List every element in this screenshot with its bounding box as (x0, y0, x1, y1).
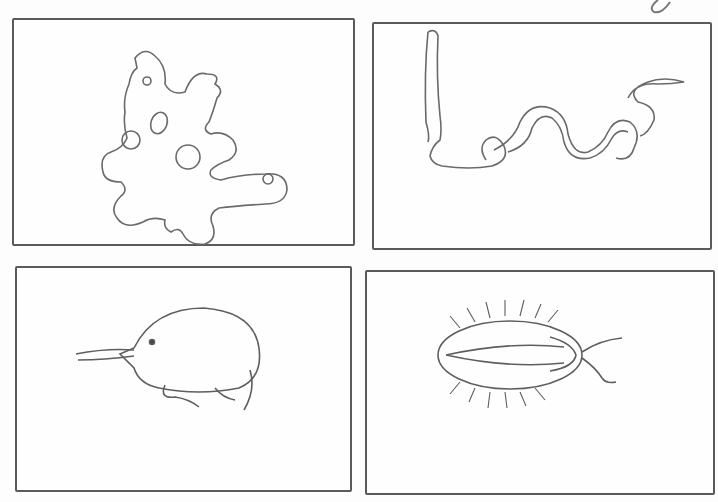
amoeba-drawing (102, 51, 287, 244)
partial-letter-sketch (652, 0, 670, 12)
ostracod-drawing (76, 308, 260, 410)
worm-drawing (425, 31, 684, 168)
trilobite-drawing (438, 300, 622, 408)
sketch-layer (0, 0, 718, 502)
